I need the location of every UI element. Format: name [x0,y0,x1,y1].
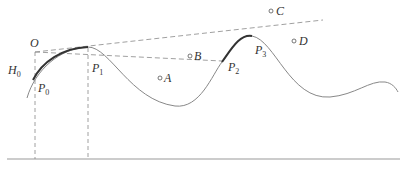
label-p3: P3 [255,44,266,59]
label-d: D [299,35,308,47]
visible-segment-p2-p3 [222,36,252,62]
label-h0: H0 [8,64,21,79]
point-a-marker [158,76,162,80]
label-b: B [194,50,201,62]
label-p0: P0 [38,82,49,97]
point-b-marker [188,54,192,58]
point-d-marker [292,39,296,43]
label-p1: P1 [92,62,103,77]
label-c: C [276,5,284,17]
terrain-curve [27,36,398,106]
label-p2: P2 [228,61,239,76]
diagram-canvas [0,0,405,170]
point-c-marker [269,9,273,13]
label-o: O [30,37,39,49]
label-a: A [164,72,171,84]
visible-segment-p0-p1 [33,47,88,80]
